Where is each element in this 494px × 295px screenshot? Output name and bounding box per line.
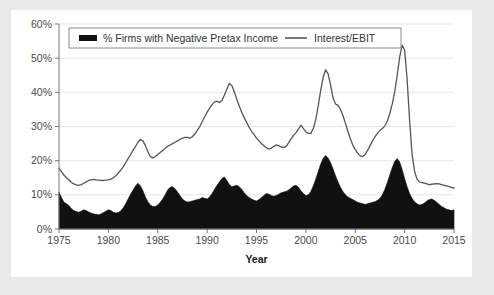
- x-axis-tick-label: 1990: [195, 234, 219, 246]
- x-axis-tick-label: 2005: [344, 234, 368, 246]
- x-axis-tick-label: 2015: [442, 234, 466, 246]
- figure-card: 0%10%20%30%40%50%60% 1975198019851990199…: [11, 10, 472, 277]
- x-axis-tick-label: 2010: [393, 234, 417, 246]
- x-axis-tick-label: 1975: [47, 234, 71, 246]
- x-axis-title: Year: [245, 253, 267, 265]
- x-axis-tick-label: 1985: [146, 234, 170, 246]
- y-axis-tick-label: 40%: [31, 86, 52, 98]
- legend-label-interest-ebit: Interest/EBIT: [314, 32, 376, 44]
- y-axis-tick-label: 10%: [31, 188, 52, 200]
- x-axis-tick-labels: 197519801985199019952000200520102015: [47, 234, 466, 246]
- legend-label-negative-pretax-income: % Firms with Negative Pretax Income: [103, 32, 278, 44]
- x-axis-tick-label: 2000: [294, 234, 318, 246]
- chart-legend: % Firms with Negative Pretax IncomeInter…: [69, 28, 401, 48]
- y-axis-tick-label: 50%: [31, 52, 52, 64]
- y-axis-tick-label: 30%: [31, 120, 52, 132]
- chart-canvas: 0%10%20%30%40%50%60% 1975198019851990199…: [11, 10, 472, 277]
- page-background: 0%10%20%30%40%50%60% 1975198019851990199…: [0, 0, 494, 295]
- x-axis-tick-label: 1995: [245, 234, 269, 246]
- x-axis-tick-label: 1980: [97, 234, 121, 246]
- y-axis-tick-label: 20%: [31, 154, 52, 166]
- legend-swatch-negative-pretax-income: [79, 35, 97, 41]
- y-axis-tick-label: 60%: [31, 18, 52, 30]
- y-axis-tick-label: 0%: [37, 223, 52, 235]
